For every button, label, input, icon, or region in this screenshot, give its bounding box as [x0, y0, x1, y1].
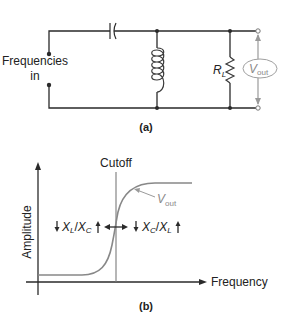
output-terminal-top [256, 29, 260, 33]
arrow-down-icon [55, 227, 60, 232]
resistor-label: RL [213, 63, 226, 79]
cutoff-label: Cutoff [100, 156, 132, 170]
vout-curve-label: Vout [157, 192, 177, 208]
input-terminal-bottom [47, 83, 51, 87]
input-label-line2: in [30, 69, 39, 83]
vout-pointer [137, 190, 155, 197]
response-chart: Amplitude Frequency Cutoff Vout XL/XC [20, 156, 268, 312]
figure-root: RL Vout Frequencies in (a) Amplitude Fre… [0, 0, 293, 318]
input-top-wire [49, 31, 110, 54]
svg-text:XC/XL: XC/XL [141, 220, 172, 235]
output-terminal-bottom [256, 106, 260, 110]
y-axis-arrow-icon [35, 162, 41, 170]
caption-b: (b) [139, 300, 153, 312]
arrow-down-icon [255, 98, 261, 105]
inductor-icon [152, 31, 164, 108]
x-axis-label: Frequency [211, 275, 268, 289]
arrow-up-icon [176, 221, 181, 226]
arrow-left-icon [104, 224, 110, 230]
resistor-icon [226, 31, 234, 108]
x-axis-arrow-icon [199, 279, 207, 285]
svg-text:XL/XC: XL/XC [61, 220, 92, 235]
bottom-wire [49, 85, 258, 108]
arrow-right-icon [122, 224, 128, 230]
arrow-down-icon [134, 227, 139, 232]
arrow-up-icon [96, 221, 101, 226]
input-label-line1: Frequencies [2, 54, 68, 68]
left-region-label: XL/XC [55, 220, 101, 235]
arrow-up-icon [255, 34, 261, 41]
circuit-diagram: RL Vout Frequencies in (a) [2, 23, 277, 133]
caption-a: (a) [139, 121, 153, 133]
right-region-label: XC/XL [134, 220, 181, 235]
pointer-arrow-icon [134, 188, 140, 193]
y-axis-label: Amplitude [20, 205, 34, 259]
